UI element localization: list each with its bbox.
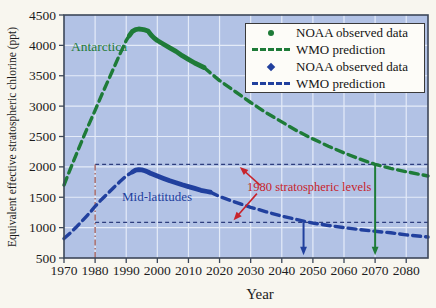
- x-tick-label: 2010: [175, 263, 202, 278]
- eesc-chart-figure: 5001000150020002500300035004000450019701…: [0, 0, 436, 308]
- x-tick-label: 2080: [393, 263, 420, 278]
- legend: NOAA observed data WMO prediction NOAA o…: [245, 23, 425, 93]
- legend-marker-cell: [246, 48, 296, 51]
- x-tick-label: 2050: [299, 263, 326, 278]
- legend-item-noaa-antarctica: NOAA observed data: [246, 25, 424, 41]
- green-dashed-line-marker-icon: [252, 48, 290, 51]
- y-tick-label: 1500: [29, 190, 56, 205]
- legend-marker-cell: [246, 82, 296, 85]
- legend-label: WMO prediction: [296, 42, 385, 58]
- y-tick-label: 2000: [29, 159, 56, 174]
- legend-item-wmo-midlat: WMO prediction: [246, 76, 424, 92]
- x-axis-title: Year: [180, 286, 340, 303]
- blue-diamond-marker-icon: [267, 62, 275, 70]
- y-tick-label: 1000: [29, 220, 56, 235]
- x-tick-label: 2020: [206, 263, 233, 278]
- y-tick-label: 2500: [29, 129, 56, 144]
- legend-label: WMO prediction: [296, 76, 385, 92]
- x-tick-label: 2040: [268, 263, 295, 278]
- y-tick-label: 4500: [29, 8, 56, 23]
- antarctica-series-label: Antarctica: [71, 39, 127, 55]
- y-tick-label: 4000: [29, 38, 56, 53]
- 1980-levels-annotation: 1980 stratospheric levels: [247, 180, 371, 195]
- x-tick-label: 2060: [331, 263, 358, 278]
- y-tick-label: 3000: [29, 99, 56, 114]
- x-tick-label: 2030: [237, 263, 264, 278]
- legend-item-noaa-midlat: NOAA observed data: [246, 59, 424, 75]
- y-tick-label: 3500: [29, 68, 56, 83]
- x-tick-label: 2000: [144, 263, 171, 278]
- mid-latitudes-series-label: Mid-latitudes: [122, 189, 192, 205]
- x-tick-label: 1990: [113, 263, 140, 278]
- legend-label: NOAA observed data: [296, 25, 408, 41]
- x-tick-label: 1980: [82, 263, 109, 278]
- legend-marker-cell: [246, 64, 296, 70]
- legend-label: NOAA observed data: [296, 59, 408, 75]
- legend-item-wmo-antarctica: WMO prediction: [246, 42, 424, 58]
- x-tick-label: 2070: [362, 263, 389, 278]
- blue-dashed-line-marker-icon: [252, 82, 290, 85]
- green-circle-marker-icon: [268, 30, 274, 36]
- y-axis-title: Equivalent effective stratospheric chlor…: [6, 18, 18, 256]
- x-tick-label: 1970: [51, 263, 78, 278]
- legend-marker-cell: [246, 30, 296, 36]
